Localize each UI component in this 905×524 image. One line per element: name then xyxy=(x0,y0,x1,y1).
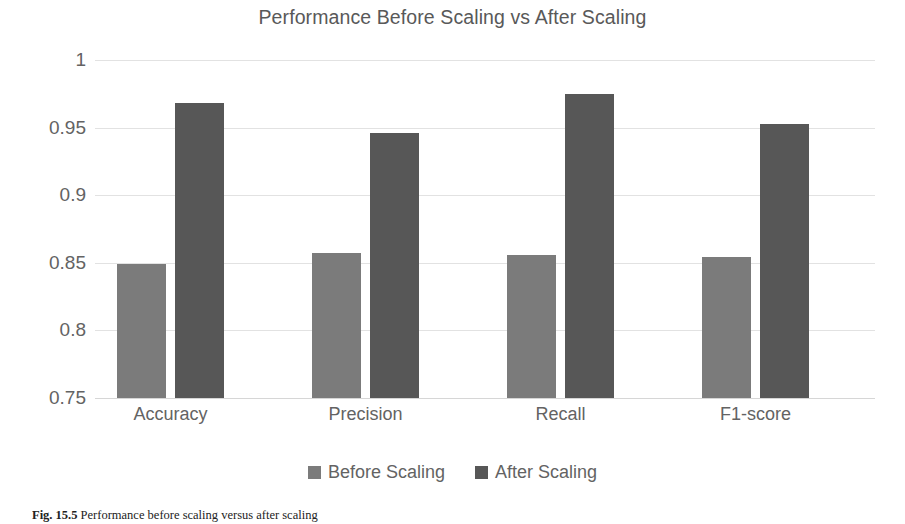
y-axis-tick-label: 0.75 xyxy=(16,387,86,409)
bar-accuracy-before-scaling xyxy=(117,264,166,398)
y-axis: 10.950.90.850.80.75 xyxy=(8,60,86,398)
y-axis-tick-label: 0.8 xyxy=(16,319,86,341)
bar-f1-score-after-scaling xyxy=(760,124,809,398)
x-axis-tick-label-precision: Precision xyxy=(328,404,402,425)
chart-legend: Before ScalingAfter Scaling xyxy=(0,462,905,483)
y-axis-tick-label: 0.9 xyxy=(16,184,86,206)
bar-f1-score-before-scaling xyxy=(702,257,751,398)
bar-accuracy-after-scaling xyxy=(175,103,224,398)
gridline-0.75 xyxy=(95,398,875,399)
bar-recall-before-scaling xyxy=(507,255,556,398)
x-axis: AccuracyPrecisionRecallF1-score xyxy=(95,404,875,438)
legend-swatch-icon xyxy=(475,466,488,479)
legend-item-before-scaling[interactable]: Before Scaling xyxy=(308,462,445,483)
legend-swatch-icon xyxy=(308,466,321,479)
y-axis-tick-label: 0.95 xyxy=(16,117,86,139)
x-axis-tick-label-recall: Recall xyxy=(535,404,585,425)
legend-label: Before Scaling xyxy=(328,462,445,483)
plot-area xyxy=(95,60,875,398)
figure-container: Performance Before Scaling vs After Scal… xyxy=(0,0,905,524)
caption-label: Fig. 15.5 xyxy=(32,508,77,522)
figure-caption: Fig. 15.5 Performance before scaling ver… xyxy=(32,508,892,524)
legend-item-after-scaling[interactable]: After Scaling xyxy=(475,462,597,483)
legend-label: After Scaling xyxy=(495,462,597,483)
x-axis-tick-label-f1-score: F1-score xyxy=(720,404,791,425)
y-axis-tick-label: 1 xyxy=(16,49,86,71)
bar-precision-before-scaling xyxy=(312,253,361,398)
bar-recall-after-scaling xyxy=(565,94,614,398)
chart-title: Performance Before Scaling vs After Scal… xyxy=(0,6,905,29)
caption-text: Performance before scaling versus after … xyxy=(81,508,318,522)
gridline-1 xyxy=(95,60,875,61)
bar-precision-after-scaling xyxy=(370,133,419,398)
y-axis-tick-label: 0.85 xyxy=(16,252,86,274)
x-axis-tick-label-accuracy: Accuracy xyxy=(133,404,207,425)
